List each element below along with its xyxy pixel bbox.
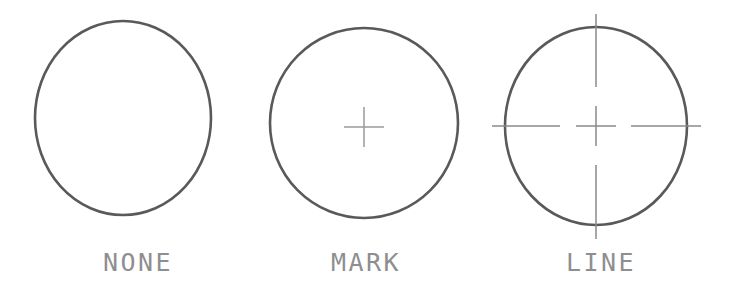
panel-label-line: LINE (566, 248, 636, 277)
center-mark-comparison-diagram: NONE MARK LINE (0, 0, 741, 296)
panel-label-mark: MARK (331, 248, 401, 277)
panel-label-none: NONE (103, 248, 173, 277)
diagram-canvas: NONE MARK LINE (0, 0, 741, 296)
